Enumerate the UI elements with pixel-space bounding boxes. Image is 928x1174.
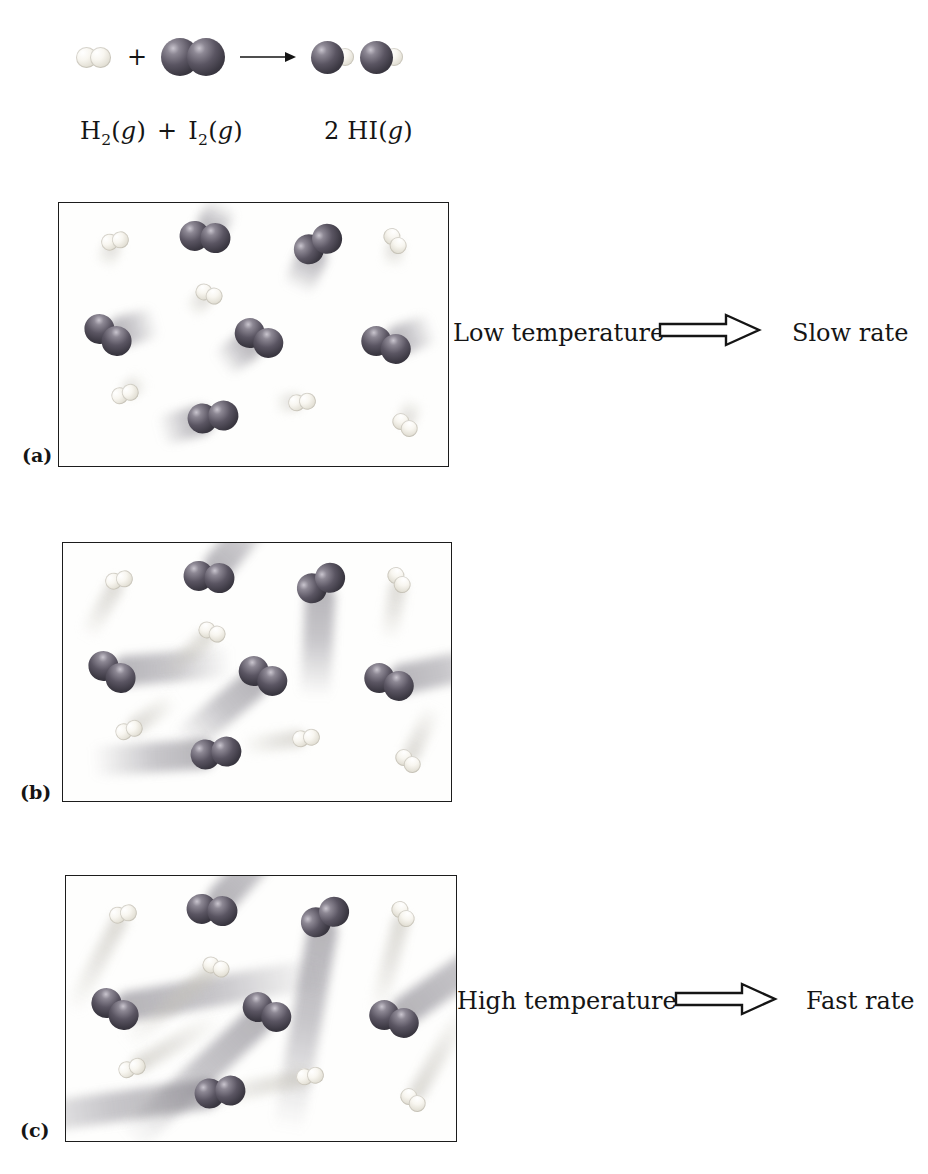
i2-molecule-model xyxy=(161,38,225,76)
h2-molecule xyxy=(113,718,145,743)
product-formula: 2 HI(g) xyxy=(324,117,413,145)
i2-formula: I2(g) xyxy=(188,117,243,145)
i2-molecule xyxy=(82,645,141,699)
h2-molecule xyxy=(287,391,317,412)
panel-a-low-temperature xyxy=(58,202,449,467)
h2-formula: H2(g) xyxy=(80,117,146,145)
reaction-equation-models: + xyxy=(76,28,403,86)
h-atom-sphere xyxy=(90,47,111,68)
figure-page: + H2(g)+I2(g) 2 HI(g) (a) (b) (c) Low te… xyxy=(0,0,928,1174)
panel-c-label: (c) xyxy=(20,1119,50,1141)
panel-b-label: (b) xyxy=(20,781,51,803)
h2-molecule xyxy=(295,1066,325,1087)
i2-molecule xyxy=(189,735,244,772)
i-atom-sphere xyxy=(206,895,239,928)
block-arrow-icon xyxy=(658,312,762,348)
i-atom-sphere xyxy=(187,38,225,76)
plus-sign: + xyxy=(127,43,147,71)
low-temperature-label: Low temperature xyxy=(453,319,664,347)
i2-molecule xyxy=(185,399,240,436)
h2-molecule xyxy=(107,903,138,925)
panel-b-medium-temperature xyxy=(62,542,452,802)
reactants-formula: H2(g)+I2(g) xyxy=(80,117,243,149)
h2-molecule xyxy=(109,381,141,406)
block-arrow-icon xyxy=(674,981,778,1017)
i2-molecule xyxy=(193,1074,248,1111)
slow-rate-label: Slow rate xyxy=(792,319,908,347)
h2-molecule-model xyxy=(76,47,111,68)
h2-molecule xyxy=(290,727,320,748)
hi-molecule-model xyxy=(311,41,354,74)
high-temperature-label: High temperature xyxy=(457,987,677,1015)
h2-molecule xyxy=(100,230,131,252)
hi-molecule-model xyxy=(360,41,403,74)
h2-molecule xyxy=(116,1056,148,1081)
i-atom-sphere xyxy=(311,41,344,74)
h-atom-sphere xyxy=(298,391,317,410)
panel-c-high-temperature xyxy=(65,875,457,1142)
i2-molecule xyxy=(182,559,236,594)
panel-a-label: (a) xyxy=(22,444,52,466)
reaction-arrow-icon xyxy=(239,50,297,64)
i2-molecule xyxy=(185,893,239,928)
plus-sign: + xyxy=(157,117,177,145)
h2-molecule xyxy=(104,569,135,591)
i-atom-sphere xyxy=(360,41,393,74)
i-atom-sphere xyxy=(199,222,232,255)
i2-molecule xyxy=(178,220,232,255)
fast-rate-label: Fast rate xyxy=(806,987,915,1015)
